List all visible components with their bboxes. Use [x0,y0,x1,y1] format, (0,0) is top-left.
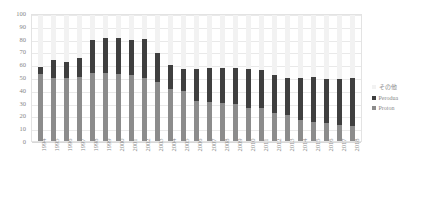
x-axis-slot: 2015 [308,144,321,206]
bar-segment [337,79,342,124]
bar-slot [138,15,151,141]
stacked-bar[interactable] [51,15,56,141]
stacked-bar[interactable] [129,15,134,141]
stacked-bar[interactable] [324,15,329,141]
bar-series-container [32,15,361,141]
bar-segment [142,39,147,78]
bar-slot [203,15,216,141]
bar-segment [285,115,290,141]
stacked-bar[interactable] [311,15,316,141]
bar-segment [155,15,160,53]
stacked-bar[interactable] [38,15,43,141]
bar-segment [298,15,303,78]
bar-segment [77,77,82,141]
x-axis-slot: 2006 [190,144,203,206]
stacked-bar[interactable] [259,15,264,141]
stacked-bar[interactable] [168,15,173,141]
stacked-column-chart: 0102030405060708090100 19941995199619971… [0,0,422,214]
x-axis-slot: 1998 [85,144,98,206]
bar-segment [272,75,277,113]
legend: その他PeroduaProton [372,84,398,111]
stacked-bar[interactable] [90,15,95,141]
bar-segment [77,58,82,77]
bar-slot [281,15,294,141]
bar-slot [99,15,112,141]
legend-swatch [372,106,376,110]
bar-segment [129,75,134,141]
bar-slot [320,15,333,141]
x-axis-slot: 2018 [347,144,360,206]
legend-item[interactable]: その他 [372,84,398,90]
bar-segment [103,38,108,73]
stacked-bar[interactable] [272,15,277,141]
bar-segment [90,40,95,73]
y-axis-tick-label: 70 [20,49,27,56]
bar-slot [73,15,86,141]
stacked-bar[interactable] [116,15,121,141]
y-axis-tick-label: 0 [23,139,26,146]
bar-segment [142,78,147,141]
legend-swatch [372,85,376,89]
bar-slot [216,15,229,141]
stacked-bar[interactable] [142,15,147,141]
stacked-bar[interactable] [298,15,303,141]
x-axis-slot: 2017 [334,144,347,206]
bar-segment [194,101,199,141]
bar-segment [38,15,43,67]
bar-slot [34,15,47,141]
stacked-bar[interactable] [207,15,212,141]
bar-segment [259,70,264,108]
legend-item[interactable]: Proton [372,105,398,111]
bar-slot [177,15,190,141]
bar-slot [268,15,281,141]
bar-segment [129,40,134,75]
stacked-bar[interactable] [77,15,82,141]
bar-segment [272,113,277,141]
bar-segment [64,62,69,78]
x-axis-slot: 2005 [177,144,190,206]
bar-segment [194,69,199,101]
stacked-bar[interactable] [155,15,160,141]
bar-slot [164,15,177,141]
bar-slot [242,15,255,141]
stacked-bar[interactable] [233,15,238,141]
legend-item[interactable]: Perodua [372,95,398,101]
y-axis-tick-label: 20 [20,113,27,120]
bar-segment [116,74,121,141]
stacked-bar[interactable] [350,15,355,141]
stacked-bar[interactable] [246,15,251,141]
stacked-bar[interactable] [194,15,199,141]
bar-segment [64,15,69,62]
bar-segment [103,73,108,141]
bar-segment [311,15,316,77]
x-axis-slot: 2000 [111,144,124,206]
bar-segment [168,65,173,89]
stacked-bar[interactable] [181,15,186,141]
bar-segment [337,15,342,79]
bar-segment [181,69,186,90]
y-axis-tick-label: 80 [20,36,27,43]
x-axis-slot: 2007 [203,144,216,206]
bar-segment [259,108,264,141]
x-axis-slot: 1994 [33,144,46,206]
bar-slot [47,15,60,141]
x-axis-slot: 2016 [321,144,334,206]
bar-segment [207,15,212,68]
y-axis-tick-label: 30 [20,100,27,107]
stacked-bar[interactable] [285,15,290,141]
bar-segment [51,15,56,60]
bar-segment [285,15,290,78]
bar-segment [38,74,43,141]
bar-segment [116,38,121,75]
stacked-bar[interactable] [337,15,342,141]
stacked-bar[interactable] [220,15,225,141]
y-axis: 0102030405060708090100 [0,14,29,142]
x-axis-slot: 2008 [216,144,229,206]
bar-segment [311,77,316,122]
bar-segment [207,68,212,102]
bar-slot [255,15,268,141]
stacked-bar[interactable] [64,15,69,141]
stacked-bar[interactable] [103,15,108,141]
bar-segment [51,78,56,141]
bar-segment [142,15,147,39]
